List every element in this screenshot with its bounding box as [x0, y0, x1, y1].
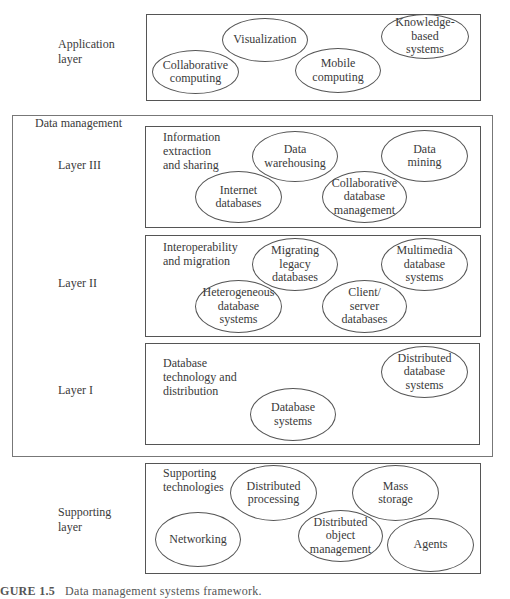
supporting-node-mass-storage: Mass storage — [352, 465, 439, 521]
application-node-collaborative-computing: Collaborative computing — [152, 50, 239, 94]
layer-2-node-client-server-databases: Client/ server databases — [322, 280, 407, 333]
layer-3-label: Layer III — [58, 158, 101, 173]
layer-3-group-label: Information extraction and sharing — [163, 130, 220, 172]
layer-2-label: Layer II — [58, 276, 97, 291]
layer-3-node-collaborative-database-management: Collaborative database management — [322, 171, 407, 223]
data-management-title: Data management — [35, 116, 122, 131]
supporting-layer-label: Supporting layer — [58, 505, 111, 535]
layer-3-node-data-mining: Data mining — [381, 130, 468, 182]
layer-2-node-multimedia-database-systems: Multimedia database systems — [381, 238, 468, 291]
application-node-visualization: Visualization — [222, 18, 308, 62]
layer-2-group-label: Interoperability and migration — [163, 240, 238, 268]
supporting-node-distributed-processing: Distributed processing — [230, 465, 317, 521]
application-node-mobile-computing: Mobile computing — [295, 48, 381, 93]
layer-3-node-data-warehousing: Data warehousing — [252, 131, 338, 182]
layer-2-node-migrating-legacy-databases: Migrating legacy databases — [252, 238, 338, 291]
figure-number: GURE 1.5 — [0, 584, 55, 598]
supporting-node-agents: Agents — [387, 518, 474, 572]
layer-1-group-label: Database technology and distribution — [163, 356, 237, 398]
layer-2-node-heterogeneous-database-systems: Heterogeneous database systems — [195, 280, 282, 333]
layer-1-node-database-systems: Database systems — [250, 388, 336, 441]
figure-caption: GURE 1.5Data management systems framewor… — [0, 584, 262, 599]
application-layer-label: Application layer — [58, 37, 115, 67]
supporting-group-label: Supporting technologies — [163, 466, 224, 494]
application-node-knowledge-based-systems: Knowledge- based systems — [381, 14, 469, 59]
supporting-node-networking: Networking — [155, 512, 241, 567]
supporting-node-distributed-object-management: Distributed object management — [298, 510, 383, 562]
layer-1-label: Layer I — [58, 383, 93, 398]
layer-1-node-distributed-database-systems: Distributed database systems — [381, 346, 468, 398]
figure-caption-text: Data management systems framework. — [65, 584, 262, 598]
layer-3-node-internet-databases: Internet databases — [195, 171, 282, 223]
